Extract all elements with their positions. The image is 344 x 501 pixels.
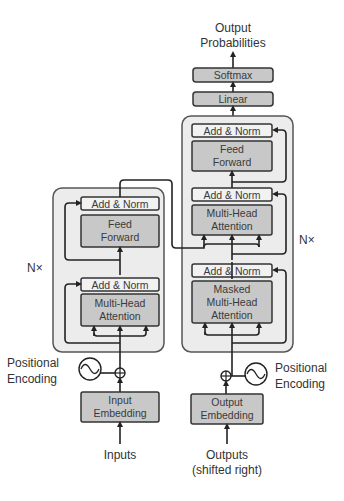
- decoder-repeat-label: N×: [299, 233, 315, 247]
- decoder-positional-label-1: Positional: [275, 361, 327, 375]
- encoder-att-label-1: Multi-Head: [95, 297, 146, 309]
- encoder-positional-label-1: Positional: [7, 356, 59, 370]
- decoder-ff-label-1: Feed: [220, 143, 244, 155]
- outputs-label-1: Outputs: [206, 448, 248, 462]
- linear-label: Linear: [218, 93, 248, 105]
- encoder-att-label-2: Attention: [99, 310, 141, 322]
- encoder-add-norm-top-label: Add & Norm: [91, 198, 148, 210]
- output-embedding-label-1: Output: [211, 396, 243, 408]
- decoder-cross-att-label-1: Multi-Head: [207, 207, 258, 219]
- decoder-add-norm-mid-label: Add & Norm: [203, 189, 260, 201]
- decoder-ff-label-2: Forward: [213, 156, 252, 168]
- softmax-label: Softmax: [214, 69, 253, 81]
- encoder-positional-label-2: Encoding: [7, 372, 57, 386]
- encoder-ff-label-1: Feed: [108, 218, 132, 230]
- decoder-positional-label-2: Encoding: [275, 377, 325, 391]
- decoder-masked-label-2: Multi-Head: [207, 296, 258, 308]
- outputs-label-2: (shifted right): [192, 463, 262, 477]
- transformer-diagram: Output Probabilities Softmax Linear N× A…: [0, 0, 344, 501]
- input-embedding-label-2: Embedding: [93, 407, 146, 419]
- output-probabilities-label-line1: Output: [215, 21, 252, 35]
- decoder-add-norm-top-label: Add & Norm: [203, 125, 260, 137]
- input-embedding-label-1: Input: [108, 394, 131, 406]
- decoder-cross-att-label-2: Attention: [211, 220, 253, 232]
- encoder-ff-label-2: Forward: [101, 231, 140, 243]
- output-embedding-label-2: Embedding: [200, 409, 253, 421]
- encoder-repeat-label: N×: [27, 261, 43, 275]
- encoder-add-norm-bottom-label: Add & Norm: [91, 279, 148, 291]
- decoder-masked-label-3: Attention: [211, 309, 253, 321]
- inputs-label: Inputs: [104, 448, 137, 462]
- output-probabilities-label-line2: Probabilities: [200, 36, 265, 50]
- decoder-masked-label-1: Masked: [214, 283, 251, 295]
- encoder-stack: [53, 188, 164, 352]
